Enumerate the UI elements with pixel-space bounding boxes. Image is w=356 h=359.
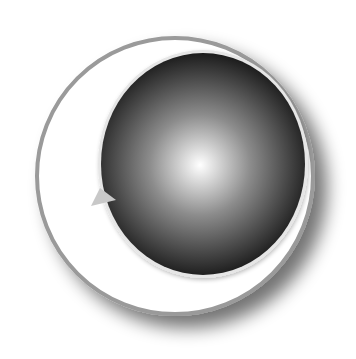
inner-sphere	[101, 53, 305, 275]
diagram-canvas	[0, 0, 356, 359]
orbit-diagram	[0, 0, 356, 359]
